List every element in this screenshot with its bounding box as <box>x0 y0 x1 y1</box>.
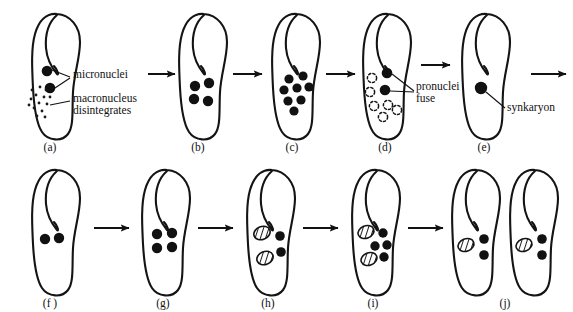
micronucleus <box>204 78 214 88</box>
micronucleus <box>276 247 286 257</box>
conjugation-diagram: (a) micronuclei macronucleus disintegrat… <box>0 0 573 312</box>
caption-b: (b) <box>191 141 205 154</box>
label-disintegrates: disintegrates <box>73 104 132 117</box>
synkaryon <box>475 82 487 94</box>
caption-i: (i) <box>368 297 379 310</box>
micronucleus <box>40 234 50 244</box>
caption-h: (h) <box>261 297 275 310</box>
label-micronuclei: micronuclei <box>73 68 128 80</box>
micronucleus <box>296 95 305 104</box>
micronucleus <box>152 243 162 253</box>
stage-i: (i) <box>352 170 400 310</box>
caption-c: (c) <box>286 141 299 154</box>
micronucleus <box>479 234 489 244</box>
micronucleus <box>378 228 387 237</box>
micronucleus <box>298 71 307 80</box>
micronucleus <box>275 231 285 241</box>
micronucleus <box>54 233 64 243</box>
stage-d: (d) <box>363 14 414 154</box>
micronucleus <box>289 106 298 115</box>
stage-h: (h) <box>247 170 295 310</box>
caption-j: (j) <box>500 297 511 310</box>
cell-body-e <box>462 14 510 140</box>
micronucleus <box>379 252 388 261</box>
micronucleus <box>304 82 313 91</box>
stage-j: (j) <box>452 170 558 310</box>
micronucleus <box>370 241 379 250</box>
micronucleus <box>203 96 213 106</box>
cell-body-f <box>32 170 80 296</box>
stage-e: (e) <box>462 14 510 154</box>
micronucleus <box>537 234 547 244</box>
micronucleus <box>190 81 200 91</box>
daughter-cell-right <box>510 170 558 296</box>
daughter-cell-left <box>452 170 500 296</box>
micronucleus <box>279 85 288 94</box>
micronucleus <box>45 83 56 94</box>
caption-g: (g) <box>156 297 170 310</box>
micronucleus <box>167 242 177 252</box>
micronucleus <box>152 229 162 239</box>
stage-a: (a) <box>28 14 80 154</box>
label-macronucleus: macronucleus <box>73 92 137 104</box>
caption-e: (e) <box>478 141 491 154</box>
cell-body-b <box>179 14 227 140</box>
micronucleus <box>284 74 293 83</box>
caption-a: (a) <box>44 141 57 154</box>
micronucleus <box>479 250 489 260</box>
label-synkaryon: synkaryon <box>507 101 555 114</box>
micronucleus <box>42 66 53 77</box>
micronucleus <box>537 250 547 260</box>
micronucleus <box>292 83 301 92</box>
micronucleus <box>167 228 177 238</box>
stage-c: (c) <box>272 14 320 154</box>
stage-b: (b) <box>179 14 227 154</box>
cell-body-g <box>142 170 190 296</box>
pronucleus <box>382 68 393 79</box>
cell-body-c <box>272 14 320 140</box>
stage-f: (f ) <box>32 170 80 310</box>
caption-f: (f ) <box>43 297 58 310</box>
caption-d: (d) <box>378 141 392 154</box>
micronucleus <box>283 96 292 105</box>
micronucleus <box>189 94 199 104</box>
label-fuse: fuse <box>416 92 435 104</box>
micronucleus <box>382 240 391 249</box>
stage-g: (g) <box>142 170 190 310</box>
pronucleus <box>380 85 391 96</box>
